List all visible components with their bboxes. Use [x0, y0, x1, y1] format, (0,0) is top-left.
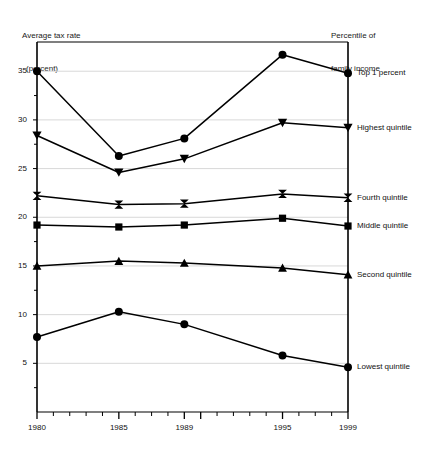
marker-square: [181, 221, 188, 228]
legend-label-top-1-percent: Top 1 percent: [357, 68, 405, 77]
legend-label-fourth-quintile: Fourth quintile: [357, 193, 408, 202]
series-line: [37, 261, 348, 275]
data-point-circle: [33, 67, 41, 75]
data-point-square: [115, 223, 122, 230]
axis-ticks: [33, 71, 348, 419]
data-point-square: [33, 221, 40, 228]
data-point-circle: [344, 363, 352, 371]
x-tick-label: 1985: [99, 423, 139, 432]
series-2: [33, 190, 353, 209]
y-tick-label: 35: [5, 66, 27, 75]
marker-circle: [344, 363, 352, 371]
series-line: [37, 194, 348, 205]
y-tick-label: 15: [5, 261, 27, 270]
marker-circle: [279, 51, 287, 59]
series-5: [33, 308, 352, 372]
marker-square: [344, 222, 351, 229]
x-tick-label: 1989: [164, 423, 204, 432]
y-tick-label: 20: [5, 212, 27, 221]
marker-square: [33, 221, 40, 228]
y-tick-label: 25: [5, 164, 27, 173]
data-point-circle: [115, 152, 123, 160]
series-line: [37, 55, 348, 156]
data-point-circle: [279, 51, 287, 59]
x-tick-label: 1995: [263, 423, 303, 432]
data-point-circle: [279, 352, 287, 360]
x-tick-label: 1980: [17, 423, 57, 432]
marker-circle: [33, 67, 41, 75]
series-line: [37, 312, 348, 368]
marker-circle: [279, 352, 287, 360]
y-tick-label: 5: [5, 358, 27, 367]
marker-triangle-down: [114, 168, 123, 176]
series-4: [33, 257, 353, 279]
marker-circle: [180, 320, 188, 328]
data-point-circle: [344, 69, 352, 77]
data-point-square: [181, 221, 188, 228]
data-point-circle: [180, 320, 188, 328]
series-0: [33, 51, 352, 160]
series-line: [37, 218, 348, 227]
marker-circle: [115, 308, 123, 316]
data-point-circle: [180, 134, 188, 142]
plot-frame: [37, 42, 348, 412]
marker-triangle-down: [32, 131, 41, 139]
marker-square: [115, 223, 122, 230]
gridlines: [37, 71, 348, 363]
marker-circle: [115, 152, 123, 160]
marker-circle: [344, 69, 352, 77]
y-tick-label: 10: [5, 310, 27, 319]
series-line: [37, 123, 348, 173]
marker-square: [279, 215, 286, 222]
y-tick-label: 30: [5, 115, 27, 124]
legend-label-middle-quintile: Middle quintile: [357, 221, 408, 230]
data-point-triangle-down: [32, 131, 41, 139]
x-tick-label: 1999: [328, 423, 368, 432]
marker-circle: [33, 333, 41, 341]
data-point-triangle-down: [114, 168, 123, 176]
data-point-circle: [115, 308, 123, 316]
tax-rate-line-chart: Average tax rate (percent) Percentile of…: [0, 0, 427, 462]
data-point-square: [344, 222, 351, 229]
data-point-square: [279, 215, 286, 222]
data-series-layer: [32, 51, 352, 372]
marker-circle: [180, 134, 188, 142]
legend-label-highest-quintile: Highest quintile: [357, 123, 412, 132]
data-point-circle: [33, 333, 41, 341]
legend-label-second-quintile: Second quintile: [357, 270, 412, 279]
legend-label-lowest-quintile: Lowest quintile: [357, 362, 410, 371]
